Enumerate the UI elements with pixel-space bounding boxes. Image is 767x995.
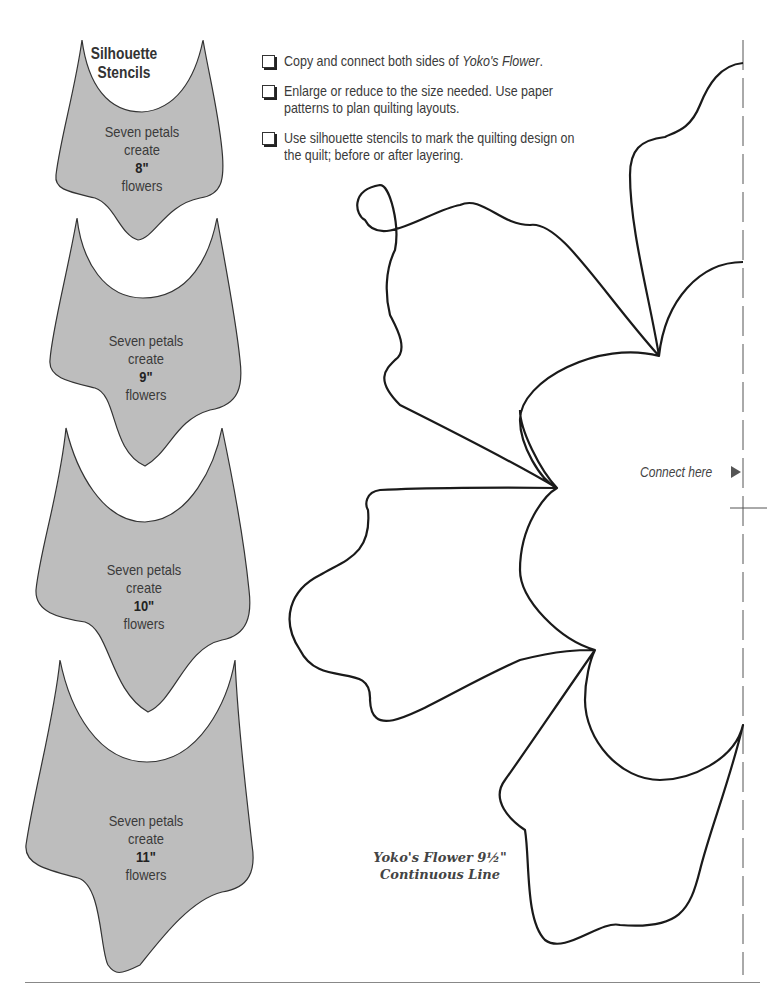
stencil-label-11in: Seven petals create 11" flowers <box>94 812 197 884</box>
stencil-label-10in: Seven petals create 10" flowers <box>92 561 195 633</box>
caption-subtitle: Continuous Line <box>380 867 500 882</box>
stencil-line: create <box>124 141 160 158</box>
checkbox-icon[interactable] <box>262 55 275 68</box>
pattern-page: Silhouette Stencils Seven petals create … <box>0 0 767 995</box>
stencils-title: Silhouette Stencils <box>79 44 168 82</box>
stencil-size: 8" <box>90 159 193 177</box>
stencil-line: create <box>126 579 162 596</box>
instructions-checklist: Copy and connect both sides of Yoko's Fl… <box>262 53 562 177</box>
checklist-suffix: . <box>539 53 542 69</box>
stencil-line: create <box>128 350 164 367</box>
pattern-caption: Yoko's Flower 9½" Continuous Line <box>350 849 530 883</box>
stencil-line: Seven petals <box>107 561 182 578</box>
checklist-text-part: Copy and connect both sides of <box>284 53 462 69</box>
checklist-text: Enlarge or reduce to the size needed. Us… <box>284 83 576 117</box>
checklist-text: Use silhouette stencils to mark the quil… <box>284 130 576 164</box>
stencil-label-9in: Seven petals create 9" flowers <box>94 332 197 404</box>
stencil-line: flowers <box>122 177 163 194</box>
stencil-line: flowers <box>126 866 167 883</box>
stencil-size: 11" <box>94 848 197 866</box>
connect-here-label: Connect here <box>640 464 712 480</box>
stencil-line: Seven petals <box>105 123 180 140</box>
stencil-line: flowers <box>126 386 167 403</box>
checklist-emphasis: Yoko's Flower <box>462 53 539 69</box>
checklist-item: Copy and connect both sides of Yoko's Fl… <box>262 53 562 70</box>
stencil-line: flowers <box>124 615 165 632</box>
stencil-line: Seven petals <box>109 812 184 829</box>
checklist-text: Copy and connect both sides of Yoko's Fl… <box>284 53 576 70</box>
yoko-flower-outline <box>290 63 743 944</box>
checkbox-icon[interactable] <box>262 85 275 98</box>
caption-title: Yoko's Flower 9½" <box>373 850 506 865</box>
stencil-label-8in: Seven petals create 8" flowers <box>90 123 193 195</box>
checkbox-icon[interactable] <box>262 132 275 145</box>
stencil-line: create <box>128 830 164 847</box>
arrow-right-icon <box>731 466 741 478</box>
stencil-size: 10" <box>92 597 195 615</box>
footer-divider <box>25 982 760 983</box>
checklist-item: Use silhouette stencils to mark the quil… <box>262 130 562 164</box>
stencil-line: Seven petals <box>109 332 184 349</box>
stencils-title-line1: Silhouette <box>91 45 158 62</box>
stencil-size: 9" <box>94 368 197 386</box>
stencils-title-line2: Stencils <box>98 64 151 81</box>
checklist-item: Enlarge or reduce to the size needed. Us… <box>262 83 562 117</box>
